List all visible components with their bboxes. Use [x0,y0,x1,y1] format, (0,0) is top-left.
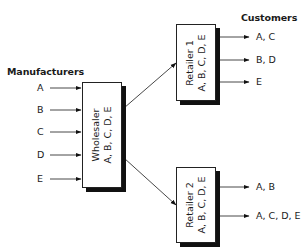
manufacturer-label-c: C [37,126,44,137]
wholesaler-text: Wholesaler A, B, C, D, E [90,106,114,163]
retailer-2-products: A, B, C, D, E [196,176,208,233]
retailer-2-text: Retailer 2 A, B, C, D, E [184,176,208,233]
retailer-1-text: Retailer 1 A, B, C, D, E [184,34,208,91]
customer-label-r1-1: A, C [256,31,275,42]
customer-label-r2-2: A, C, D, E [256,210,301,221]
retailer-1-name: Retailer 1 [184,34,196,91]
customer-label-r1-3: E [256,76,262,87]
distribution-diagram: Manufacturers Customers A B C D E Wholes… [0,0,306,251]
manufacturer-label-e: E [37,173,43,184]
customer-label-r1-2: B, D [256,54,276,65]
wholesaler-name: Wholesaler [90,106,102,163]
manufacturer-label-d: D [37,149,44,160]
customer-label-r2-1: A, B [256,181,275,192]
wholesaler-products: A, B, C, D, E [102,106,114,163]
manufacturer-label-a: A [37,82,44,93]
wholesaler-box: Wholesaler A, B, C, D, E [82,82,122,188]
customers-heading: Customers [241,12,297,23]
retailer-2-name: Retailer 2 [184,176,196,233]
retailer-2-box: Retailer 2 A, B, C, D, E [176,167,216,243]
manufacturer-label-b: B [37,104,44,115]
manufacturers-heading: Manufacturers [7,66,84,77]
retailer-1-box: Retailer 1 A, B, C, D, E [176,24,216,101]
retailer-1-products: A, B, C, D, E [196,34,208,91]
